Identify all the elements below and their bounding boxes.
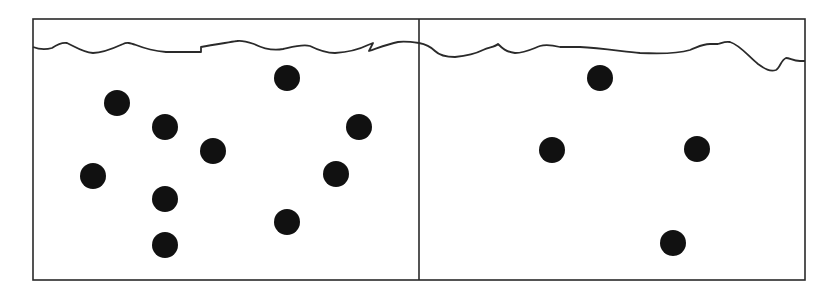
particle-dot xyxy=(274,65,300,91)
particle-dot xyxy=(104,90,130,116)
particle-dot xyxy=(684,136,710,162)
particle-dot xyxy=(152,114,178,140)
particle-dot xyxy=(323,161,349,187)
particle-dot xyxy=(152,232,178,258)
particle-dot xyxy=(152,186,178,212)
particle-dot xyxy=(660,230,686,256)
particle-dot xyxy=(80,163,106,189)
particle-dot xyxy=(346,114,372,140)
particle-dot xyxy=(274,209,300,235)
particle-dot xyxy=(200,138,226,164)
particle-diagram xyxy=(0,0,823,291)
particle-dot xyxy=(587,65,613,91)
particle-dot xyxy=(539,137,565,163)
